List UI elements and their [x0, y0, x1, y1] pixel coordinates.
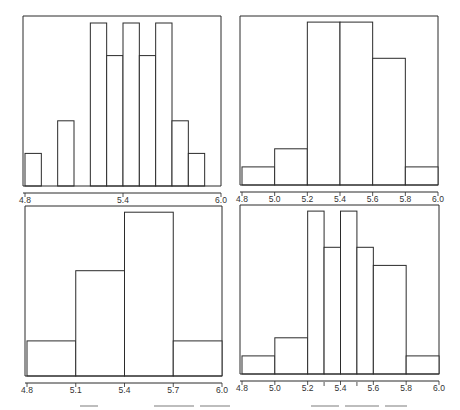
histogram-bar — [27, 341, 76, 376]
x-tick-label: 4.8 — [236, 383, 248, 393]
histogram-bar — [275, 338, 308, 374]
x-tick-label: 5.4 — [334, 194, 346, 204]
histogram-bar — [341, 211, 357, 374]
x-tick-label: 5.4 — [117, 195, 129, 205]
x-tick-label: 6.0 — [433, 383, 445, 393]
histogram-bar — [373, 58, 406, 185]
histogram-bar — [90, 23, 106, 186]
x-tick-label: 5.8 — [399, 194, 411, 204]
histogram-bar — [123, 23, 139, 186]
histogram-bar — [25, 153, 41, 186]
x-tick-label: 6.0 — [215, 195, 227, 205]
histogram-bar — [139, 56, 155, 186]
histogram-figure: 4.85.46.0 4.85.05.25.45.65.86.0 4.85.15.… — [0, 0, 460, 410]
histogram-bar — [340, 22, 373, 185]
histogram-bar — [324, 247, 340, 374]
x-tick-label: 4.8 — [236, 194, 248, 204]
histogram-bar — [357, 247, 373, 374]
x-tick-label: 5.4 — [335, 383, 347, 393]
histogram-bar — [107, 56, 123, 186]
histogram-bar — [308, 211, 324, 374]
histogram-bar — [406, 356, 439, 374]
histogram-bar — [125, 212, 174, 376]
x-tick-label: 4.8 — [21, 385, 33, 395]
x-tick-label: 5.4 — [119, 385, 131, 395]
histogram-bar — [172, 121, 188, 186]
histogram-bar — [307, 22, 340, 185]
x-tick-label: 5.2 — [301, 194, 313, 204]
histogram-bottom-left: 4.85.15.45.76.0 — [21, 206, 228, 395]
histogram-bar — [58, 121, 74, 186]
x-tick-label: 6.0 — [216, 385, 228, 395]
x-tick-label: 5.0 — [269, 383, 281, 393]
histogram-bar — [188, 153, 204, 186]
x-tick-label: 5.7 — [167, 385, 179, 395]
histogram-bar — [242, 356, 275, 374]
x-tick-label: 5.6 — [367, 194, 379, 204]
x-tick-label: 5.0 — [269, 194, 281, 204]
x-tick-label: 5.6 — [367, 383, 379, 393]
histogram-bar — [242, 167, 275, 185]
histogram-bar — [76, 271, 125, 376]
histogram-bar — [373, 265, 406, 374]
histogram-bottom-right: 4.85.05.25.45.65.86.0 — [236, 205, 445, 393]
histogram-bar — [275, 149, 308, 185]
x-tick-label: 5.8 — [400, 383, 412, 393]
histogram-top-right: 4.85.05.25.45.65.86.0 — [236, 16, 444, 204]
histogram-top-left: 4.85.46.0 — [19, 16, 227, 205]
x-tick-label: 5.1 — [70, 385, 82, 395]
x-tick-label: 4.8 — [19, 195, 31, 205]
histogram-bar — [173, 341, 222, 376]
x-tick-label: 5.2 — [302, 383, 314, 393]
figure-caption-cropped — [80, 405, 450, 410]
histogram-bar — [405, 167, 438, 185]
x-tick-label: 6.0 — [432, 194, 444, 204]
histogram-bar — [156, 23, 172, 186]
